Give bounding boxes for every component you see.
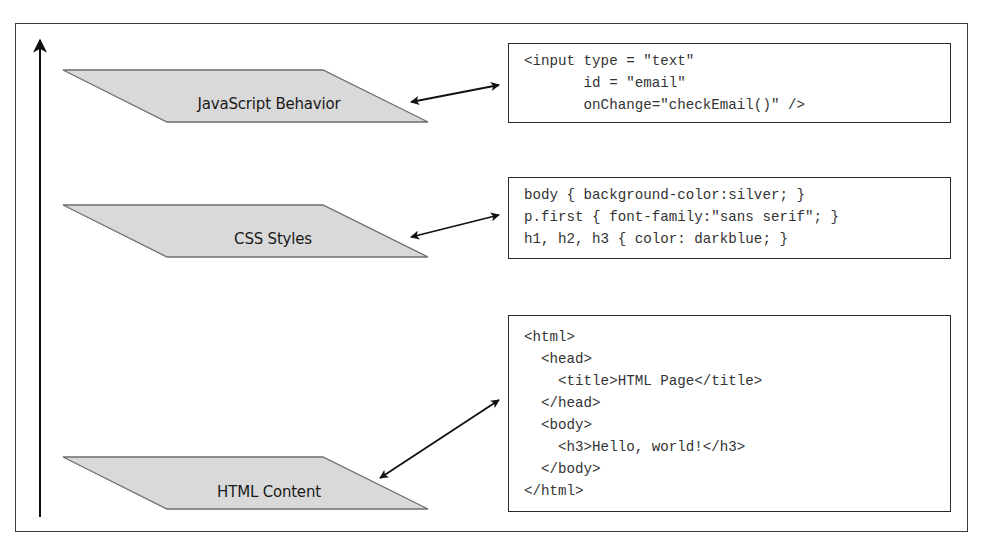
code-line: h1, h2, h3 { color: darkblue; } [524,228,950,250]
code-line: <h3>Hello, world!</h3> [524,436,950,458]
css-layer-label: CSS Styles [234,230,312,248]
code-line: <title>HTML Page</title> [524,370,950,392]
code-line: </head> [524,392,950,414]
javascript-layer-label: JavaScript Behavior [198,95,341,113]
code-line: <input type = "text" [524,50,950,72]
html-code-box: <html> <head> <title>HTML Page</title> <… [508,315,951,512]
code-line: </html> [524,480,950,502]
html-connector-arrow-icon [380,400,499,478]
css-connector-arrow-icon [411,215,499,237]
code-line: onChange="checkEmail()" /> [524,94,950,116]
code-line: <head> [524,348,950,370]
code-line: id = "email" [524,72,950,94]
javascript-connector-arrow-icon [411,85,499,102]
code-line: p.first { font-family:"sans serif"; } [524,206,950,228]
css-code-box: body { background-color:silver; } p.firs… [508,177,951,259]
javascript-code-box: <input type = "text" id = "email" onChan… [508,43,951,123]
code-line: <html> [524,326,950,348]
code-line: </body> [524,458,950,480]
html-layer-label: HTML Content [217,483,321,501]
code-line: <body> [524,414,950,436]
code-line: body { background-color:silver; } [524,184,950,206]
